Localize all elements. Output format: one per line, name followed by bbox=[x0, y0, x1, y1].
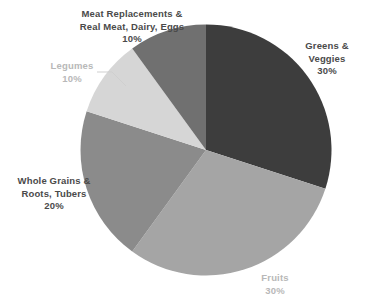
slice-label-whole-grains: Whole Grains & Roots, Tubers 20% bbox=[2, 175, 106, 213]
slice-label-grains-line1: Whole Grains & bbox=[2, 175, 106, 188]
slice-label-meat-replacements: Meat Replacements & Real Meat, Dairy, Eg… bbox=[42, 8, 222, 46]
slice-label-legumes-line1: Legumes bbox=[30, 60, 114, 73]
slice-value-greens: 30% bbox=[288, 65, 366, 78]
slice-value-legumes: 10% bbox=[30, 73, 114, 86]
slice-value-grains: 20% bbox=[2, 200, 106, 213]
pie-chart-figure: Meat Replacements & Real Meat, Dairy, Eg… bbox=[0, 0, 367, 301]
slice-label-greens-line2: Veggies bbox=[288, 53, 366, 66]
slice-label-greens-line1: Greens & bbox=[288, 40, 366, 53]
slice-label-meat-line2: Real Meat, Dairy, Eggs bbox=[42, 21, 222, 34]
slice-label-grains-line2: Roots, Tubers bbox=[2, 188, 106, 201]
slice-value-meat: 10% bbox=[42, 33, 222, 46]
slice-label-legumes: Legumes 10% bbox=[30, 60, 114, 85]
slice-label-greens-veggies: Greens & Veggies 30% bbox=[288, 40, 366, 78]
slice-label-meat-line1: Meat Replacements & bbox=[42, 8, 222, 21]
slice-value-fruits: 30% bbox=[238, 285, 312, 298]
slice-label-fruits-line1: Fruits bbox=[238, 272, 312, 285]
slice-label-fruits: Fruits 30% bbox=[238, 272, 312, 297]
